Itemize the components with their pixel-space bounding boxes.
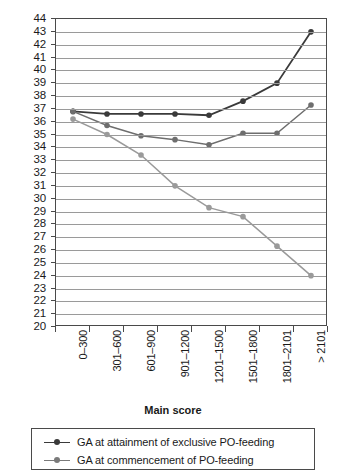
y-tick-label: 37 (34, 102, 46, 114)
gridline (56, 289, 326, 290)
gridline (56, 147, 326, 148)
chart-legend: GA at attainment of exclusive PO-feeding… (31, 428, 315, 470)
x-tick-label: > 2101 (315, 330, 327, 363)
y-tick-label: 43 (34, 25, 46, 37)
gridline (56, 173, 326, 174)
y-tick-label: 36 (34, 115, 46, 127)
y-tick-label: 38 (34, 89, 46, 101)
gridline (56, 83, 326, 84)
gridline (56, 237, 326, 238)
gridline (56, 109, 326, 110)
y-tick-label: 31 (34, 179, 46, 191)
y-tick-label: 24 (34, 269, 46, 281)
plot-area (55, 18, 327, 326)
x-axis-title: Main score (0, 404, 346, 416)
legend-item-0: GA at attainment of exclusive PO-feeding (44, 433, 314, 451)
x-tick-label: 901–1200 (179, 330, 191, 377)
legend-label: GA at attainment of exclusive PO-feeding (77, 436, 274, 448)
gridline (56, 263, 326, 264)
y-tick-label: 25 (34, 256, 46, 268)
legend-label: GA at commencement of PO-feeding (77, 454, 254, 466)
x-tick-label: 0–300 (77, 330, 89, 360)
y-tick-label: 39 (34, 76, 46, 88)
legend-item-1: GA at commencement of PO-feeding (44, 451, 314, 469)
y-tick-label: 29 (34, 205, 46, 217)
x-tick-label: 601–900 (145, 330, 157, 371)
x-tick-label: 301–600 (111, 330, 123, 371)
gridlines (56, 19, 326, 325)
gridline (56, 58, 326, 59)
y-tick-label: 42 (34, 38, 46, 50)
x-axis-tick-labels: 0–300301–600601–900901–12001201–15001501… (0, 330, 346, 408)
gridline (56, 32, 326, 33)
gridline (56, 45, 326, 46)
y-axis-tick-labels: 4443424140393837363534333231302928272625… (0, 0, 52, 346)
gridline (56, 212, 326, 213)
chart-figure: GA at attainment of milestones (weeks) 4… (0, 0, 346, 471)
y-tick-label: 32 (34, 166, 46, 178)
gridline (56, 301, 326, 302)
y-tick-label: 21 (34, 307, 46, 319)
y-tick-label: 35 (34, 128, 46, 140)
x-tick-label: 1501–1800 (247, 330, 259, 383)
gridline (56, 199, 326, 200)
gridline (56, 96, 326, 97)
y-tick-label: 23 (34, 282, 46, 294)
y-tick-label: 40 (34, 63, 46, 75)
legend-marker-icon (44, 455, 70, 465)
y-tick-label: 33 (34, 153, 46, 165)
gridline (56, 135, 326, 136)
gridline (56, 122, 326, 123)
gridline (56, 70, 326, 71)
y-tick-label: 22 (34, 294, 46, 306)
gridline (56, 276, 326, 277)
gridline (56, 224, 326, 225)
gridline (56, 186, 326, 187)
y-tick-label: 41 (34, 51, 46, 63)
gridline (56, 160, 326, 161)
x-tick-label: 1201–1500 (213, 330, 225, 383)
y-tick-label: 27 (34, 230, 46, 242)
y-tick-label: 34 (34, 140, 46, 152)
gridline (56, 250, 326, 251)
x-tick-label: 1801–2101 (281, 330, 293, 383)
gridline (56, 314, 326, 315)
y-tick-label: 30 (34, 192, 46, 204)
y-tick-label: 28 (34, 217, 46, 229)
y-tick-label: 44 (34, 12, 46, 24)
y-tick-label: 26 (34, 243, 46, 255)
legend-marker-icon (44, 437, 70, 447)
